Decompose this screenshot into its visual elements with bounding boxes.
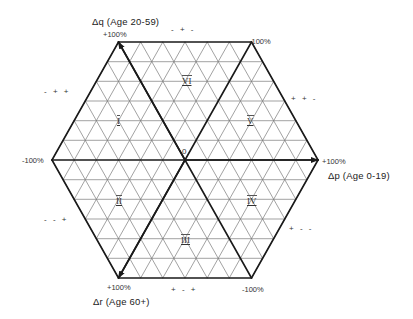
sign-upper-right: + + - <box>291 95 317 103</box>
grid-line-diag-b <box>229 141 306 279</box>
sign-upper-left: - + + <box>44 88 70 96</box>
sign-lower-right: + - - <box>289 225 313 233</box>
grid-line-diag-b <box>63 42 141 180</box>
grid-line-diag-a <box>63 141 141 279</box>
axis-title-q: Δq (Age 20-59) <box>92 17 159 27</box>
axis-title-p: Δp (Age 0-19) <box>328 171 390 181</box>
region-label-ii: II <box>116 197 122 206</box>
region-label-iv: IV <box>247 197 257 206</box>
sign-top: - + - <box>171 26 195 34</box>
label-q-plus-100: +100% <box>103 31 127 39</box>
label-q-minus-100: -100% <box>242 286 264 294</box>
grid-line-diag-b <box>108 42 230 258</box>
region-label-i: I <box>117 117 120 126</box>
grid-line-diag-a <box>229 42 306 180</box>
axis-title-r: Δr (Age 60+) <box>93 297 150 307</box>
label-p-minus-100: -100% <box>22 157 44 165</box>
label-r-plus-100: +100% <box>107 284 131 292</box>
sign-bottom: + - + <box>171 286 197 294</box>
grid-line-diag-b <box>185 101 285 278</box>
label-p-plus-100: +100% <box>322 158 346 166</box>
grid-line-diag-b <box>141 62 263 278</box>
label-r-minus-100: -100% <box>249 38 271 46</box>
grid-line-diag-a <box>85 101 185 278</box>
grid-line-diag-a <box>108 62 230 278</box>
grid-line-diag-a <box>141 42 263 258</box>
region-label-v: V <box>247 117 254 126</box>
origin-label: 0 <box>182 148 186 156</box>
hexagon-diagram <box>0 0 413 319</box>
sign-lower-left: - - + <box>44 216 68 224</box>
grid-line-diag-a <box>185 42 285 219</box>
grid-line-diag-b <box>85 42 185 219</box>
region-label-vi: VI <box>182 77 192 86</box>
region-label-iii: III <box>181 236 190 245</box>
